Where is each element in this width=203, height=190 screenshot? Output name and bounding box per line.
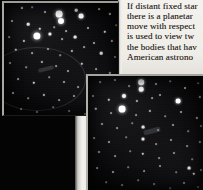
scanned-page: If distant fixed star there is a planeta… xyxy=(0,0,203,190)
body-text-line-2: there is a planetar xyxy=(127,11,203,21)
body-text-line-1: If distant fixed star xyxy=(127,1,203,11)
body-text-line-4: is used to view tw xyxy=(127,31,203,41)
body-text-line-5: the bodies that hav xyxy=(127,42,203,52)
body-text-column: If distant fixed star there is a planeta… xyxy=(127,1,203,62)
star-field-photograph-lower xyxy=(86,74,203,190)
film-grain-lower xyxy=(88,76,203,190)
body-text-line-6: American astrono xyxy=(127,52,203,62)
body-text-line-3: move with respect xyxy=(127,21,203,31)
